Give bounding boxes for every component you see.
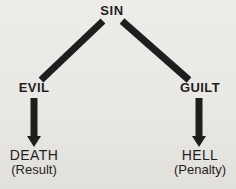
edge-sin-evil xyxy=(41,21,103,80)
node-hell-label: HELL xyxy=(174,148,226,163)
node-evil: EVIL xyxy=(19,81,50,94)
node-hell: HELL (Penalty) xyxy=(174,148,226,177)
node-sin: SIN xyxy=(100,4,123,17)
node-hell-sublabel: (Penalty) xyxy=(174,163,226,177)
diagram-canvas: SIN EVIL GUILT DEATH (Result) HELL (Pena… xyxy=(0,0,236,189)
node-guilt: GUILT xyxy=(180,81,220,94)
node-death-sublabel: (Result) xyxy=(10,163,58,177)
edge-sin-guilt xyxy=(122,21,189,80)
edge-evil-death-arrowhead-icon xyxy=(27,136,41,147)
node-death-label: DEATH xyxy=(10,148,58,163)
edge-guilt-hell-arrowhead-icon xyxy=(192,136,206,147)
node-death: DEATH (Result) xyxy=(10,148,58,177)
